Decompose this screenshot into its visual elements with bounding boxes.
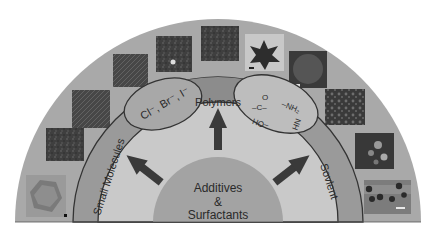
carbonyl-group: –C–: [252, 103, 267, 112]
core-label-line2: &: [214, 195, 222, 209]
micrograph-sphere: [289, 51, 327, 88]
core-label-line1: Additives: [194, 181, 243, 195]
micrograph-star: [245, 34, 284, 71]
micrograph-porous: [325, 89, 365, 125]
micrograph-rods: [72, 90, 110, 128]
micrograph-dots: [364, 180, 411, 214]
micrograph-dendrites: [355, 133, 394, 169]
micrograph-dense: [201, 26, 239, 61]
polymers-label: Polymers: [195, 96, 241, 108]
carbonyl-o: O: [262, 93, 268, 102]
core-label-line3: Surfactants: [188, 208, 249, 222]
micrograph-hexagon: [26, 175, 67, 217]
micrograph-aggregate: [46, 128, 84, 161]
micrograph-needles: [113, 54, 148, 87]
micrograph-flowers: [156, 36, 192, 72]
diagram: Cl⁻, Br⁻, I⁻ O –C– –NH₂ –OH NH Polymers …: [0, 0, 430, 236]
